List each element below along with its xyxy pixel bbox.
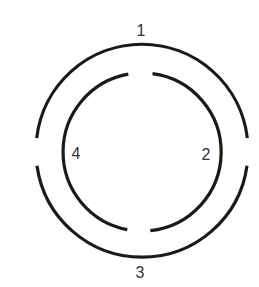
inner-ring-right-arc <box>150 74 221 231</box>
inner-ring <box>63 74 221 231</box>
ring-diagram: 1 2 3 4 <box>0 0 259 287</box>
label-bottom: 3 <box>136 264 145 281</box>
label-top: 1 <box>137 22 146 39</box>
label-left: 4 <box>72 145 81 162</box>
outer-ring <box>37 44 248 257</box>
labels: 1 2 3 4 <box>72 22 211 281</box>
label-right: 2 <box>202 146 211 163</box>
